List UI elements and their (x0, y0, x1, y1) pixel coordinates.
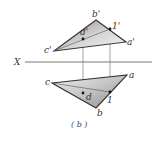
label-c: c (45, 77, 50, 87)
label-1: 1 (107, 95, 113, 105)
label-d: d (86, 92, 92, 102)
point-d-prime (82, 38, 85, 41)
point-1 (109, 91, 112, 94)
label-d-prime: d' (80, 27, 88, 37)
point-d (82, 92, 85, 95)
point-1-prime (109, 28, 112, 31)
label-a-prime: a' (127, 37, 135, 47)
label-a: a (129, 70, 134, 80)
x-axis-label: X (13, 57, 21, 67)
label-1-prime: 1' (112, 21, 120, 31)
label-b-prime: b' (92, 9, 100, 19)
label-b: b (97, 108, 103, 118)
label-c-prime: c' (44, 45, 52, 55)
projection-diagram: X b' 1' d' a' c' c a d 1 b ( b ) (0, 0, 162, 141)
figure-caption: ( b ) (71, 120, 87, 129)
